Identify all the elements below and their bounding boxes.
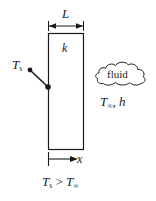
x-axis-arrow xyxy=(49,152,79,166)
diagram-graphics xyxy=(0,0,156,201)
heat-transfer-diagram: L k Ts fluid T∞, h x Ts > T∞ xyxy=(0,0,156,201)
convection-coefficient-symbol: h xyxy=(119,94,126,109)
thermal-conductivity-label: k xyxy=(62,42,67,54)
fluid-properties-label: T∞, h xyxy=(100,95,126,110)
condition-right-subscript: ∞ xyxy=(73,181,78,190)
leader-dot-label-end xyxy=(28,68,33,73)
dimension-arrowhead-right xyxy=(76,23,83,29)
surface-temp-leader xyxy=(28,68,51,90)
leader-line xyxy=(30,70,48,87)
condition-operator: > xyxy=(52,174,66,189)
temperature-condition-label: Ts > T∞ xyxy=(42,175,79,190)
leader-dot-surface-end xyxy=(45,84,51,90)
dimension-arrowhead-left xyxy=(49,23,56,29)
wall-thickness-label: L xyxy=(62,7,69,20)
surface-temp-subscript: s xyxy=(19,64,22,73)
x-axis-label: x xyxy=(77,153,82,165)
surface-temperature-label: Ts xyxy=(12,58,22,73)
dimension-line-L xyxy=(49,21,84,31)
fluid-cloud-label: fluid xyxy=(107,69,128,80)
